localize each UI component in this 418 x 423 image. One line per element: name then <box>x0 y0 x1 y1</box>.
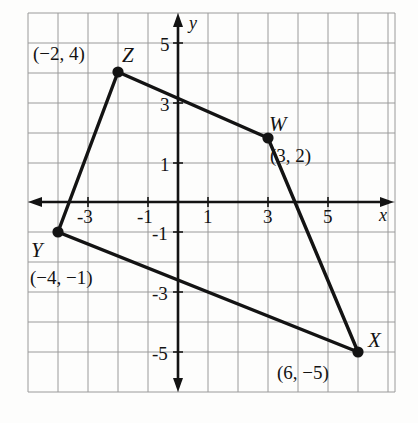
x-tick-label-5: 5 <box>323 207 333 226</box>
vertex-label-w: W <box>269 114 287 135</box>
vertex-dot-x <box>352 346 363 357</box>
x-tick-label-3: 3 <box>263 207 273 226</box>
y-tick-label-neg5: -5 <box>152 344 168 363</box>
vertex-coords-x: (6, −5) <box>277 363 329 382</box>
y-axis-label: y <box>189 14 197 32</box>
vertex-label-x: X <box>368 330 381 351</box>
vertex-coords-y: (−4, −1) <box>30 268 93 287</box>
x-tick-label-neg3: -3 <box>77 207 93 226</box>
vertex-label-z: Z <box>122 45 134 66</box>
y-tick-label-1: 1 <box>160 155 170 174</box>
y-tick-label-5: 5 <box>160 35 170 54</box>
y-tick-label-3: 3 <box>160 95 170 114</box>
vertex-label-y: Y <box>31 240 43 261</box>
vertex-dot-y <box>52 226 63 237</box>
coordinate-plane-figure: -3 -1 1 3 5 5 3 1 -1 -3 -5 y x Z W Y X (… <box>0 0 418 423</box>
y-tick-label-neg1: -1 <box>152 224 168 243</box>
x-axis-label: x <box>379 206 387 224</box>
x-tick-label-neg1: -1 <box>137 207 153 226</box>
y-tick-label-neg3: -3 <box>152 284 168 303</box>
vertex-coords-w: (3, 2) <box>270 146 311 165</box>
vertex-coords-z: (−2, 4) <box>33 44 85 63</box>
x-tick-label-1: 1 <box>203 207 213 226</box>
vertex-dot-z <box>112 66 123 77</box>
